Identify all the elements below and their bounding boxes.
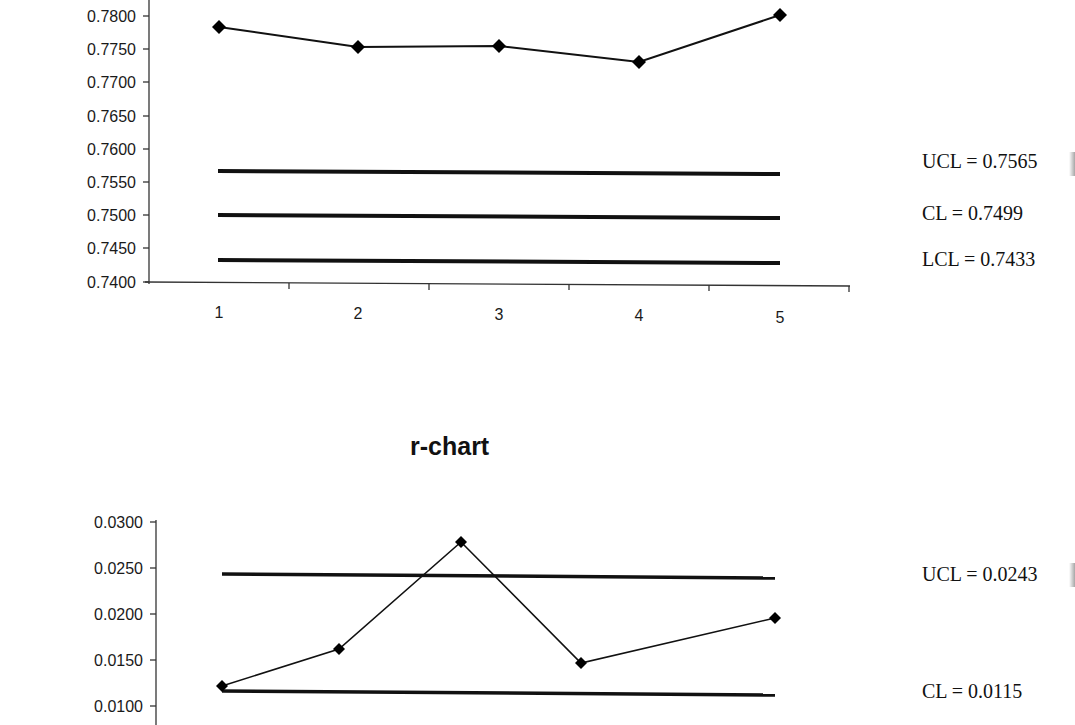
diamond-marker-icon xyxy=(492,39,506,53)
xbar-y-tick-labels: 0.7800 0.7750 0.7700 0.7650 0.7600 0.755… xyxy=(87,8,136,291)
xbar-ytick-label: 0.7500 xyxy=(87,207,136,224)
xbar-chart: 0.7800 0.7750 0.7700 0.7650 0.7600 0.755… xyxy=(0,0,1075,725)
xbar-ytick-label: 0.7400 xyxy=(87,274,136,291)
xbar-ytick-label: 0.7600 xyxy=(87,141,136,158)
r-cl-label: CL = 0.0115 xyxy=(922,680,1022,703)
xbar-xtick-label: 4 xyxy=(635,307,644,324)
xbar-x-axis xyxy=(145,282,850,286)
xbar-lcl-line xyxy=(218,260,780,263)
xbar-ucl-line xyxy=(218,171,780,174)
xbar-xtick-label: 1 xyxy=(215,304,224,321)
xbar-cl-label: CL = 0.7499 xyxy=(922,202,1023,225)
xbar-xtick-label: 2 xyxy=(354,305,363,322)
r-y-ticks xyxy=(150,522,156,706)
diamond-marker-icon xyxy=(769,612,781,624)
xbar-cl-line xyxy=(218,215,780,218)
diamond-marker-icon xyxy=(212,20,226,34)
r-ytick-label: 0.0250 xyxy=(94,560,143,577)
r-chart-title: r-chart xyxy=(410,432,489,461)
xbar-x-tick-labels: 1 2 3 4 5 xyxy=(215,304,785,326)
diamond-marker-icon xyxy=(351,40,365,54)
xbar-y-ticks xyxy=(143,16,149,282)
xbar-xtick-label: 5 xyxy=(776,309,785,326)
r-ytick-label: 0.0300 xyxy=(94,514,143,531)
r-ytick-label: 0.0150 xyxy=(94,652,143,669)
r-ucl-label: UCL = 0.0243 xyxy=(922,563,1038,586)
xbar-ytick-label: 0.7800 xyxy=(87,8,136,25)
scan-edge-shadow xyxy=(1069,152,1075,176)
xbar-lcl-label: LCL = 0.7433 xyxy=(922,248,1035,271)
diamond-marker-icon xyxy=(632,55,646,69)
xbar-data-line xyxy=(219,15,780,62)
r-ucl-line xyxy=(222,574,775,578)
r-ytick-label: 0.0100 xyxy=(94,698,143,715)
xbar-xtick-label: 3 xyxy=(495,306,504,323)
xbar-ytick-label: 0.7550 xyxy=(87,174,136,191)
xbar-x-ticks xyxy=(289,283,849,292)
diamond-marker-icon xyxy=(773,8,787,22)
xbar-ytick-label: 0.7700 xyxy=(87,74,136,91)
r-ytick-label: 0.0200 xyxy=(94,606,143,623)
r-y-tick-labels: 0.0300 0.0250 0.0200 0.0150 0.0100 xyxy=(94,514,143,715)
xbar-ytick-label: 0.7650 xyxy=(87,108,136,125)
r-data-line xyxy=(222,542,775,686)
xbar-ytick-label: 0.7450 xyxy=(87,240,136,257)
xbar-ytick-label: 0.7750 xyxy=(87,41,136,58)
r-cl-line xyxy=(222,691,775,695)
scan-edge-shadow xyxy=(1069,563,1075,587)
r-data-markers xyxy=(216,536,781,692)
xbar-ucl-label: UCL = 0.7565 xyxy=(922,150,1038,173)
